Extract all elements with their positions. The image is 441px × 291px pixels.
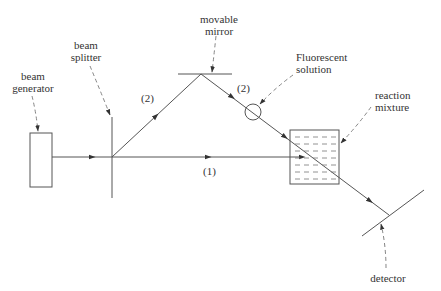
path-2-left-label: (2) — [141, 92, 154, 104]
path-2-up-beam — [112, 74, 201, 157]
beam-generator-box — [30, 133, 52, 187]
fluorescent-solution-leader — [260, 75, 293, 104]
reaction-mixture-leader — [341, 107, 371, 143]
fluorescent-solution-cell — [245, 104, 261, 120]
optical-setup-diagram: beam generator beam splitter movable mir… — [0, 0, 441, 291]
movable-mirror-leader — [212, 36, 216, 72]
movable-mirror-label: movable mirror — [189, 13, 249, 37]
beam-splitter-leader — [90, 66, 110, 115]
beam-generator-leader — [32, 96, 38, 131]
reaction-mixture-label: reaction mixture — [375, 89, 410, 113]
path-2-right-label: (2) — [237, 82, 250, 94]
reaction-mixture-liquid — [295, 137, 336, 179]
detector-leader — [381, 224, 386, 268]
beam-generator-label: beam generator — [0, 70, 66, 94]
detector-label: detector — [366, 272, 410, 284]
path-1-label: (1) — [203, 165, 216, 177]
path-2-down-beam — [201, 74, 389, 215]
fluorescent-solution-label: Fluorescent solution — [296, 51, 347, 75]
beam-splitter-label: beam splitter — [58, 39, 114, 63]
detector — [362, 190, 424, 236]
